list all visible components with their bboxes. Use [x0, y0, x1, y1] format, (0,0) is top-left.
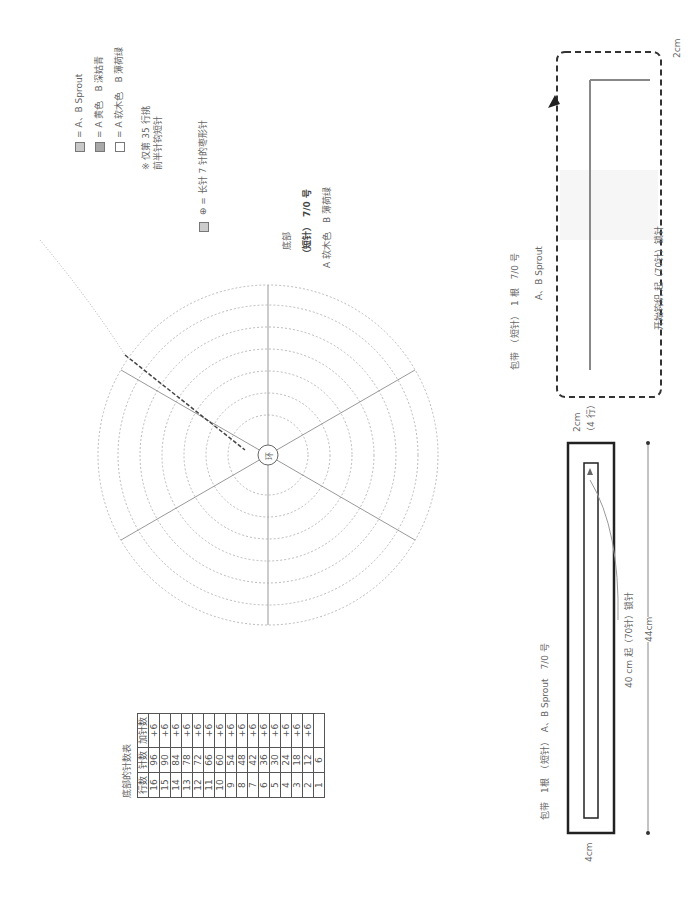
bobble-stitch-icon: ⊕ [198, 208, 208, 216]
table-row: 1166+6 [204, 714, 215, 798]
strap-chart-yarn: A、B Sprout [532, 246, 545, 300]
legend-item-yellow: = A 黄色 B 深姑青 [92, 56, 105, 152]
strap-height-2cm: 2cm [572, 413, 582, 432]
strap-start-note: 开始钩织 起（70针）锁针 [652, 226, 665, 330]
table-row: 742+6 [248, 714, 259, 798]
swatch-cork-icon [115, 142, 125, 152]
bottom-colors: A 软木色 B 薄荷绿 [320, 187, 333, 268]
table-row: 1484+6 [171, 714, 182, 798]
table-row: 424+6 [281, 714, 292, 798]
table-row: 1590+6 [160, 714, 171, 798]
strap-length-label: 44cm [644, 617, 654, 642]
center-ring-label: 环 [263, 452, 274, 460]
bobble-symbol-icon [199, 222, 209, 232]
legend-note: ※ 仅第 35 行挑 前半针钩短针 [140, 106, 164, 170]
swatch-sprout-icon [75, 142, 85, 152]
table-row: 1272+6 [193, 714, 204, 798]
count-table-title: 底部的针数表 [120, 713, 133, 798]
count-table: 行数 针数 加针数 1696+6 1590+6 1484+6 1378+6 12… [137, 713, 325, 798]
table-row: 636+6 [259, 714, 270, 798]
strap-chart-title: 包带 （短针） 1 根 7/0 号 [508, 253, 521, 370]
strap-width-4cm: 4cm [584, 843, 594, 862]
strap-rows-label: （4 行） [584, 400, 597, 436]
legend-bobble: ⊕ = 长针 7 针的枣形针 [196, 120, 209, 232]
legend-item-cork: = A 软木色 B 薄荷绿 [112, 47, 125, 152]
table-row: 1060+6 [215, 714, 226, 798]
table-row: 212+6 [303, 714, 314, 798]
table-row: 318+6 [292, 714, 303, 798]
table-row: 16 [314, 714, 325, 798]
bottom-title: 底部 [280, 232, 293, 250]
strap-width-label: 2cm [672, 39, 682, 58]
table-row: 954+6 [226, 714, 237, 798]
bottom-hook: （短针） 7/0 号 [300, 189, 313, 258]
table-row: 848+6 [237, 714, 248, 798]
stitch-count-table: 底部的针数表 行数 针数 加针数 1696+6 1590+6 1484+6 13… [120, 713, 325, 798]
strap-schematic-title: 包带 1根 （短针） A、B Sprout 7/0 号 [538, 643, 551, 820]
strap-chain-label: 40 cm 起（70针）锁针 [622, 592, 635, 688]
legend-item-sprout: = A、B Sprout [72, 74, 85, 152]
table-row: 1696+6 [149, 714, 160, 798]
swatch-yellow-icon [95, 142, 105, 152]
table-row: 1378+6 [182, 714, 193, 798]
table-row: 530+6 [270, 714, 281, 798]
